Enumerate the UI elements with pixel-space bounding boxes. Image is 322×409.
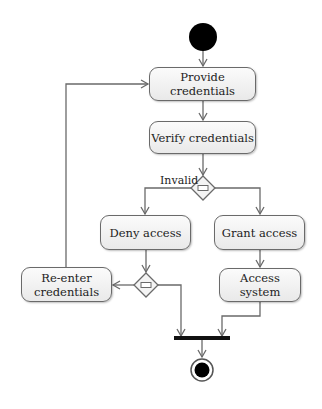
action-provide-credentials: Provide credentials — [149, 67, 256, 101]
action-label: Deny access — [110, 226, 182, 240]
action-label: Access system — [220, 271, 300, 299]
action-grant-access: Grant access — [214, 215, 305, 250]
initial-node — [189, 23, 217, 51]
action-deny-access: Deny access — [100, 215, 191, 250]
action-verify-credentials: Verify credentials — [149, 121, 256, 154]
action-label: Re-enter credentials — [34, 271, 99, 299]
action-access-system: Access system — [219, 268, 301, 302]
action-label: Grant access — [222, 226, 298, 240]
action-label: Verify credentials — [151, 131, 254, 145]
guard-invalid: Invalid — [160, 174, 198, 187]
merge-diamond — [134, 273, 158, 297]
diagram-edges — [0, 0, 322, 409]
join-bar — [174, 336, 230, 340]
final-node — [191, 359, 213, 381]
action-reenter-credentials: Re-enter credentials — [21, 267, 112, 302]
action-label: Provide credentials — [150, 70, 255, 98]
